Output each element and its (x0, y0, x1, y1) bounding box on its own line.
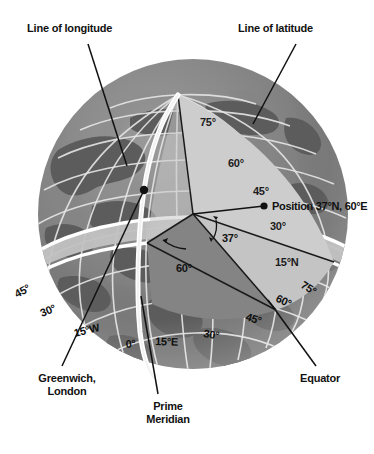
position-dot[interactable] (260, 202, 267, 209)
lon-label-15w: 15°W (73, 321, 102, 339)
lon-label-45w: 45° (12, 282, 32, 300)
callout-greenwich-london: Greenwich, London (12, 372, 122, 398)
angle-label-37: 37° (222, 232, 238, 244)
lat-label-60: 60° (228, 157, 244, 169)
callout-line-of-latitude: Line of latitude (238, 22, 313, 35)
lon-label-15e: 15°E (155, 335, 178, 348)
callout-equator: Equator (300, 372, 340, 385)
callout-prime-meridian: Prime Meridian (128, 400, 208, 426)
lat-label-75: 75° (200, 116, 216, 128)
callout-greenwich-line2: London (12, 385, 122, 398)
lat-label-45: 45° (253, 185, 269, 197)
position-label: Position 37°N, 60°E (272, 200, 367, 212)
callout-prime-line2: Meridian (128, 413, 208, 426)
lat-label-30: 30° (270, 220, 286, 232)
diagram-canvas: Position 37°N, 60°E 75° 60° 45° 30° 15°N… (0, 0, 374, 454)
callout-line-of-longitude: Line of longitude (27, 22, 112, 35)
lon-label-30w: 30° (38, 302, 57, 319)
lon-label-0: 0° (125, 337, 136, 350)
lat-label-15n: 15°N (275, 256, 299, 268)
lon-label-30e: 30° (203, 327, 220, 341)
callout-greenwich-line1: Greenwich, (12, 372, 122, 385)
angle-label-60: 60° (176, 262, 192, 274)
callout-prime-line1: Prime (128, 400, 208, 413)
